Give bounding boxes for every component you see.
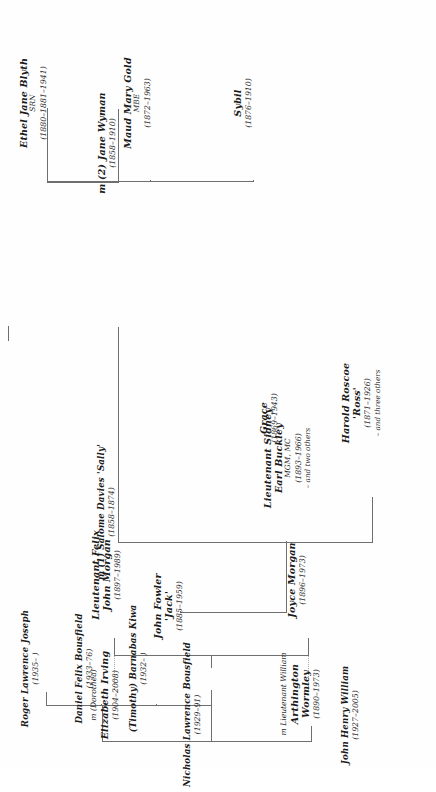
maud-connector [150,180,151,182]
roger-name: Roger Lawrence Joseph [20,581,30,756]
nicholas-dates: (1929–91) [193,627,202,792]
node-john-henry-william: John Henry William (1927–2005) [340,640,360,790]
jack-name: John Fowler [152,546,163,666]
jack-nickname: 'Jack' [163,546,174,666]
node-ethel-jane-blyth: Ethel Jane Blyth SRN (1880–1881–1941) [18,38,48,168]
maud-dates: (1872–1963) [143,38,152,168]
sybil-connector [253,180,254,182]
timothy-connector [156,704,157,706]
node-daniel-felix-bousfield: Daniel Felix Bousfield (1933–76) [74,581,94,756]
node-marriage-2: m (2) Jane Wyman (1858–1910) [96,78,117,208]
john-henry-name: John Henry William [340,640,350,790]
node-timothy-barnabas-kiwa: (Timothy) Barnabas Kiwa (1932– ) [128,581,148,756]
nicholas-connector [211,740,212,742]
harold-nickname: 'Ross' [351,328,362,478]
maud-qualification: MBE [133,38,142,168]
harold-dates: (1871–1926) [363,328,372,478]
wormley-name-line2: Wormley [300,614,311,774]
daniel-dates: (1933–76) [85,581,94,756]
nicholas-name: Nicholas Lawrence Bousfield [182,627,192,792]
node-maud-mary-gold: Maud Mary Gold MBE (1872–1963) [122,38,152,168]
node-william-arthington-wormley: m Lieutenant William Arthington Wormley … [280,614,322,774]
root-stub-line [8,327,9,341]
jack-riser-line [180,612,286,613]
ethel-dates: (1880–1881–1941) [39,38,48,168]
grace-connector [372,541,373,543]
wormley-marriage-prefix: m Lieutenant William [280,614,289,774]
dorothea-dates: (1904–2008) [111,620,120,770]
marriage2-label: m (2) Jane Wyman [96,78,107,208]
wormley-name-line1: Arthington [289,614,300,774]
harold-connector [372,497,373,543]
children-feed-line [211,690,212,742]
node-john-fowler-jack: John Fowler 'Jack' (1885–1959) [152,546,185,666]
node-roger-lawrence-joseph: Roger Lawrence Joseph (1935– ) [20,581,40,756]
sybil-name: Sybil [232,38,243,168]
john-henry-dates: (1927–2005) [351,640,360,790]
harold-name: Harold Roscoe [340,328,351,478]
node-harold-roscoe: Harold Roscoe 'Ross' (1871–1926) – and t… [340,328,382,478]
node-sybil: Sybil (1876–1910) [232,38,253,168]
root-spine-line [8,326,9,327]
roger-connector [46,692,47,706]
ethel-qualification: SRN [29,38,38,168]
timothy-dates: (1932– ) [139,581,148,756]
daniel-name: Daniel Felix Bousfield [74,581,84,756]
sybil-dates: (1876–1910) [244,38,253,168]
node-dorothea-elizabeth-irving: m (Dorothea) Elizabeth Irving (1904–2008… [90,620,120,770]
sidney-name-line1: Lieutenant Sidney [262,378,273,538]
node-nicholas-lawrence-bousfield: Nicholas Lawrence Bousfield (1929–91) [182,627,202,792]
harold-extra: – and three others [374,328,382,478]
wormley-dates: (1890–1973) [312,614,321,774]
marriage2-dates: (1858–1910) [108,78,117,208]
marriage2-branch-line [118,109,119,183]
timothy-name: (Timothy) Barnabas Kiwa [128,581,138,756]
roger-dates: (1935– ) [31,581,40,756]
dorothea-name: Elizabeth Irving [99,620,110,770]
sibling-bar-feed [211,656,212,668]
marriage1-riser-line [118,542,372,543]
